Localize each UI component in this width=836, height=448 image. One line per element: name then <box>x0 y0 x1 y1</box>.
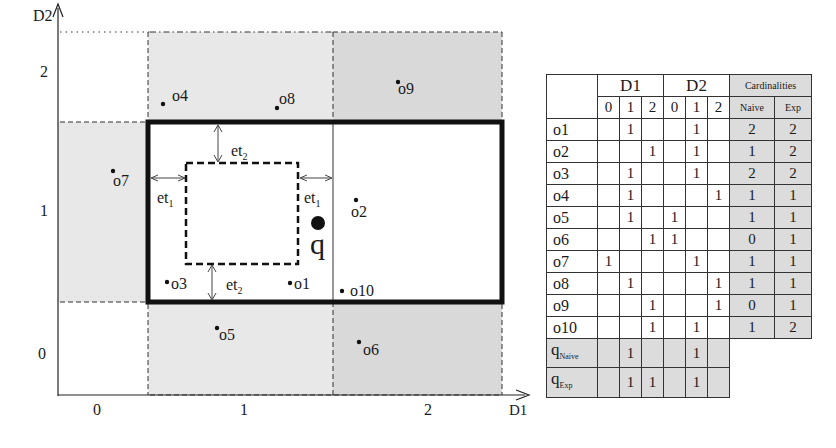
cell: 1 <box>686 141 708 163</box>
table-row: o2 1 1 1 2 <box>547 141 812 163</box>
cell <box>642 207 664 229</box>
table-row: o6 1 1 0 1 <box>547 229 812 251</box>
header-d2-1: 1 <box>686 97 708 119</box>
cell <box>708 251 730 273</box>
header-cardinalities: Cardinalities <box>730 75 812 97</box>
row-label: o9 <box>547 295 598 317</box>
cell <box>598 141 620 163</box>
cell <box>664 251 686 273</box>
cell: 1 <box>642 229 664 251</box>
cell: 1 <box>686 251 708 273</box>
cell <box>598 295 620 317</box>
table-row: o10 1 1 1 2 <box>547 317 812 339</box>
cell <box>708 229 730 251</box>
header-d1-2: 2 <box>642 97 664 119</box>
header-d1: D1 <box>598 75 664 97</box>
cell: 1 <box>620 207 642 229</box>
et2-top-label: et2 <box>231 142 248 162</box>
row-label: o2 <box>547 141 598 163</box>
cell <box>664 339 686 368</box>
cardinality-table: D1 D2 Cardinalities 0 1 2 0 1 2 Naive Ex… <box>546 74 812 398</box>
exp-value: 1 <box>775 207 812 229</box>
exp-value: 1 <box>775 185 812 207</box>
cell: 1 <box>642 317 664 339</box>
cell <box>598 317 620 339</box>
table-row: o1 1 1 2 2 <box>547 119 812 141</box>
cell: 1 <box>620 119 642 141</box>
row-label: o8 <box>547 273 598 295</box>
header-d2: D2 <box>664 75 730 97</box>
cell-d1-1-d2-2 <box>148 32 333 122</box>
cell <box>708 163 730 185</box>
cell-d1-0-d2-1 <box>58 122 148 302</box>
cell: 1 <box>620 185 642 207</box>
cell: 1 <box>686 317 708 339</box>
cell: 1 <box>708 185 730 207</box>
table-row: o7 1 1 1 1 <box>547 251 812 273</box>
query-row-exp: qExp 1 1 1 <box>547 368 812 397</box>
cell <box>708 119 730 141</box>
cell: 1 <box>686 119 708 141</box>
row-label: o7 <box>547 251 598 273</box>
naive-value: 1 <box>730 141 775 163</box>
row-label: o1 <box>547 119 598 141</box>
query-range-box <box>148 122 502 302</box>
row-label: qExp <box>547 368 598 397</box>
inner-query-region <box>186 163 298 264</box>
table-header-row-1: D1 D2 Cardinalities <box>547 75 812 97</box>
exp-value: 1 <box>775 295 812 317</box>
x-tick-1: 1 <box>240 401 248 418</box>
cell <box>708 317 730 339</box>
point-o2: o2 <box>351 198 367 220</box>
cell: 1 <box>686 368 708 397</box>
cell <box>664 273 686 295</box>
naive-value: 1 <box>730 251 775 273</box>
cell <box>642 273 664 295</box>
et1-left-arrow <box>151 175 185 181</box>
et1-right-label: et1 <box>304 189 321 209</box>
cell <box>598 163 620 185</box>
table-row: o9 1 1 0 1 <box>547 295 812 317</box>
cell <box>598 273 620 295</box>
cell <box>620 317 642 339</box>
y-tick-2: 2 <box>40 63 48 80</box>
cell <box>686 273 708 295</box>
exp-value: 2 <box>775 163 812 185</box>
cell: 1 <box>642 141 664 163</box>
cell <box>708 207 730 229</box>
point-o9: o9 <box>396 80 414 97</box>
et2-bottom-arrow <box>208 265 216 300</box>
blank-cell <box>730 339 812 368</box>
cell: 1 <box>642 295 664 317</box>
cell: 1 <box>686 339 708 368</box>
et1-right-arrow <box>300 175 332 181</box>
cell <box>642 339 664 368</box>
cell <box>598 119 620 141</box>
cell <box>664 141 686 163</box>
grid-diagram: et2 et2 et1 et1 q o1 o2 o3 o4 o5 o6 o7 o… <box>0 0 540 448</box>
svg-text:o9: o9 <box>398 80 414 97</box>
cell <box>598 339 620 368</box>
cell <box>686 229 708 251</box>
table-row: o5 1 1 1 1 <box>547 207 812 229</box>
cell <box>686 207 708 229</box>
table-row: o3 1 1 2 2 <box>547 163 812 185</box>
cell: 1 <box>598 251 620 273</box>
svg-text:o7: o7 <box>113 172 129 189</box>
cell <box>598 368 620 397</box>
cell: 1 <box>708 295 730 317</box>
cell: 1 <box>708 273 730 295</box>
header-naive: Naive <box>730 97 775 119</box>
exp-value: 1 <box>775 229 812 251</box>
cell <box>620 141 642 163</box>
cell <box>620 251 642 273</box>
svg-text:o3: o3 <box>171 275 187 292</box>
cell: 1 <box>664 229 686 251</box>
naive-value: 1 <box>730 185 775 207</box>
cell <box>664 295 686 317</box>
header-corner <box>547 75 598 119</box>
naive-value: 1 <box>730 207 775 229</box>
svg-text:o4: o4 <box>172 87 188 104</box>
table-row: o8 1 1 1 1 <box>547 273 812 295</box>
cell-d1-1-d2-0 <box>148 302 333 395</box>
